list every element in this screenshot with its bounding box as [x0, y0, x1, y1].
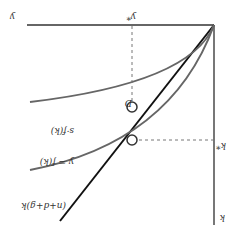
- savings-curve: [30, 25, 214, 102]
- solow-diagram: y y* D k* k s·f(k) y = f(k) (n+d+g)k: [0, 0, 241, 233]
- label-output-curve: y = f(k): [39, 157, 75, 167]
- label-break-even: (n+d+g)k: [21, 201, 66, 211]
- point-y-star: [127, 135, 137, 145]
- label-k-star: k*: [216, 141, 226, 151]
- label-point-d: D: [125, 98, 133, 108]
- label-y-star: y*: [126, 12, 137, 22]
- label-y-axis: y: [9, 12, 16, 22]
- label-k-axis: k: [220, 213, 225, 223]
- label-savings-curve: s·f(k): [50, 126, 74, 136]
